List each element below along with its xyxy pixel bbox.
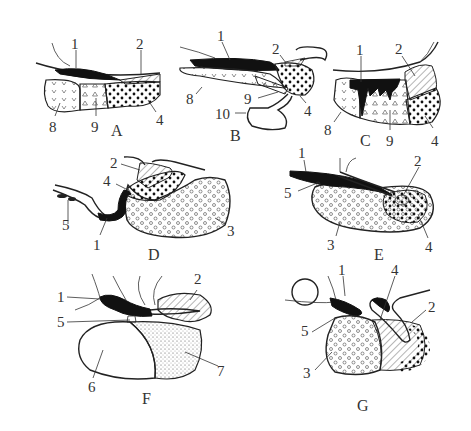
leader-line [380,276,395,320]
leader-line [196,87,202,94]
panel-d-tube-upper [55,185,105,215]
panel-g-region-3 [326,316,382,375]
leader-line [412,310,426,322]
panel-a-region-9 [80,84,108,110]
callout-2: 2 [194,271,202,287]
callout-2: 2 [272,41,280,57]
callout-2: 2 [136,36,144,52]
panel-label-b: B [230,127,241,144]
callout-2: 2 [414,153,422,169]
leader-line [334,112,341,122]
leader-line [121,164,140,170]
callout-9: 9 [91,119,99,135]
callout-7: 7 [217,363,225,379]
leader-line [258,92,278,98]
leader-line [116,184,128,190]
callout-4: 4 [304,103,312,119]
panel-a: 1 2 8 9 4 A [36,36,164,139]
callout-8: 8 [186,91,194,107]
leader-line [280,55,286,63]
callout-3: 3 [327,237,335,253]
callout-4: 4 [431,133,439,149]
panel-label-g: G [357,397,369,414]
panel-a-region-8 [44,80,80,112]
panel-e-region-2 [395,195,409,205]
panel-f-region-7 [130,322,202,379]
callout-1: 1 [217,28,225,44]
panel-g-stalk-upper [328,276,336,300]
panel-label-c: C [360,132,371,149]
leader-line [67,297,100,299]
leader-line [343,276,345,296]
callout-8: 8 [49,119,57,135]
leader-line [300,96,306,103]
callout-1: 1 [298,145,306,161]
panel-d-region-5-mark [68,197,76,201]
callout-1: 1 [71,36,79,52]
callout-1: 1 [338,262,346,278]
callout-9: 9 [386,133,394,149]
panel-label-f: F [142,390,151,407]
callout-3: 3 [303,365,311,381]
callout-9: 9 [244,91,252,107]
callout-3: 3 [227,223,235,239]
callout-5: 5 [57,314,65,330]
panel-b: 1 2 8 9 4 10 B [180,28,327,144]
panel-d: 2 4 5 1 3 D [53,155,235,263]
panel-f-region-2 [158,293,211,321]
panel-label-a: A [111,122,123,139]
panel-g-stalk [285,300,335,303]
figure-canvas: 1 2 8 9 4 A 1 2 8 9 4 10 B [0,0,471,431]
callout-5: 5 [301,323,309,339]
callout-10: 10 [215,106,230,122]
callout-4: 4 [425,239,433,255]
panel-label-d: D [148,246,160,263]
panel-d-region-5-mark [57,194,67,198]
panel-c: 1 2 8 9 4 C [324,41,440,149]
callout-2: 2 [110,155,118,171]
callout-6: 6 [88,379,96,395]
callout-1: 1 [57,289,65,305]
panel-f: 1 2 5 6 7 F [57,271,225,407]
panel-a-region-4 [105,81,160,108]
leader-line [222,42,230,60]
callout-5: 5 [284,185,292,201]
callout-2: 2 [395,41,403,57]
callout-5: 5 [62,217,70,233]
leader-line [304,160,306,172]
panel-d-region-1 [98,190,130,221]
leader-line [298,184,315,191]
panel-label-e: E [374,246,384,263]
callout-4: 4 [391,262,399,278]
panel-f-region-1 [100,295,152,316]
panel-f-left-stalk [75,274,100,310]
callout-2: 2 [428,299,436,315]
panel-b-outer-curve [180,47,215,58]
callout-8: 8 [324,122,332,138]
panel-f-region-5 [127,316,136,322]
panel-g-region-1 [330,298,362,316]
panel-e-stalks [340,158,356,172]
callout-1: 1 [93,237,101,253]
callout-4: 4 [103,173,111,189]
callout-4: 4 [156,112,164,128]
panel-a-upper-membrane [52,43,70,66]
callout-1: 1 [356,42,364,58]
panel-b-region-10-loop [247,94,292,130]
panel-e: 1 2 5 3 4 E [284,145,433,263]
panel-b-tube-upper [296,47,327,60]
panel-g: 1 4 2 5 3 G [285,262,436,414]
